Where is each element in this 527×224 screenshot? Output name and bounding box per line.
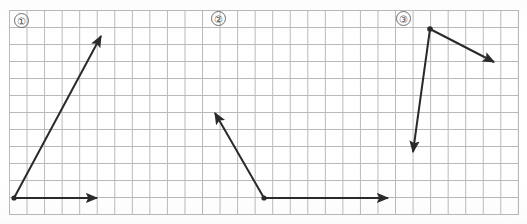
angle-figures-layer — [0, 0, 527, 224]
panel-2-angle — [215, 113, 388, 201]
panel-1-angle — [11, 36, 101, 201]
vertex-point — [261, 195, 266, 200]
ray-down-right — [430, 29, 494, 62]
panel-label-1: ① — [14, 13, 29, 28]
ray-down-left — [413, 29, 430, 152]
panel-3-angle — [413, 26, 494, 152]
panel-label-3: ③ — [396, 11, 411, 26]
worksheet-canvas: ① ② ③ — [0, 0, 527, 224]
ray-up-right — [14, 36, 101, 198]
panel-label-2: ② — [211, 11, 226, 26]
ray-up-left — [215, 113, 264, 198]
vertex-point — [11, 195, 16, 200]
vertex-point — [427, 26, 433, 32]
